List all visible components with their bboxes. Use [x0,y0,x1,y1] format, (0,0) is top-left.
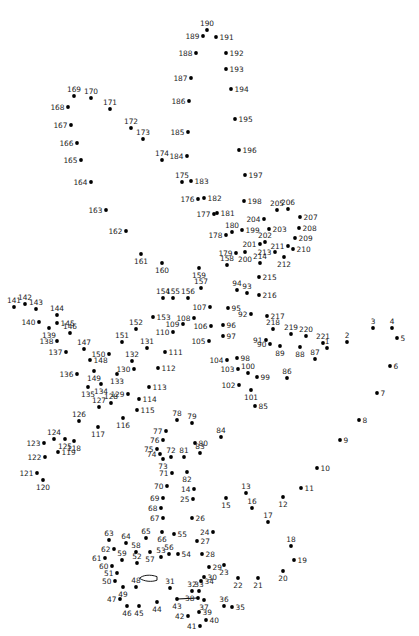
puzzle-dot [273,250,277,254]
puzzle-dot [271,327,275,331]
dot-number-label: 91 [253,336,263,345]
puzzle-dot [253,404,257,408]
puzzle-dot [258,261,262,265]
puzzle-dot [237,148,241,152]
puzzle-dot [207,339,211,343]
dot-number-label: 72 [166,446,175,455]
dot-number-label: 107 [192,303,206,312]
dot-number-label: 96 [227,321,237,330]
dot-number-label: 140 [21,318,35,327]
dot-number-label: 159 [192,271,206,280]
dot-number-label: 156 [181,287,195,296]
puzzle-dot [192,316,196,320]
dot-number-label: 209 [299,234,313,243]
dot-number-label: 203 [273,225,287,234]
puzzle-dot [103,556,107,560]
puzzle-dot [171,296,175,300]
dot-number-label: 218 [266,318,280,327]
puzzle-dot [129,126,133,130]
dot-number-label: 210 [297,245,311,254]
dot-number-label: 68 [148,504,158,513]
puzzle-dot [161,457,165,461]
dot-number-label: 208 [303,224,317,233]
puzzle-dot [190,589,194,593]
dot-number-label: 185 [170,128,184,137]
puzzle-dot [196,197,200,201]
puzzle-dot [282,255,286,259]
dot-number-label: 97 [227,332,237,341]
dot-number-label: 201 [242,240,256,249]
puzzle-dot [201,34,205,38]
dot-number-label: 67 [150,514,160,523]
puzzle-dot [125,604,129,608]
dot-number-label: 169 [67,85,81,94]
puzzle-dot [221,323,225,327]
dot-number-label: 102 [221,381,235,390]
dot-number-label: 11 [305,484,315,493]
puzzle-dot [199,286,203,290]
dot-number-label: 77 [153,427,163,436]
puzzle-dot [55,321,59,325]
puzzle-dot [199,579,203,583]
dot-number-label: 194 [235,85,249,94]
dot-number-label: 204 [246,215,260,224]
dot-number-label: 166 [59,139,73,148]
dot-number-label: 135 [81,390,95,399]
dot-number-label: 85 [259,402,269,411]
dot-number-label: 144 [50,304,64,313]
dot-number-label: 206 [281,198,295,207]
puzzle-dot [297,226,301,230]
dot-number-label: 123 [26,439,40,448]
puzzle-dot [35,471,39,475]
dot-number-label: 47 [107,595,117,604]
puzzle-dot [43,455,47,459]
puzzle-dot [197,589,201,593]
puzzle-dot [175,597,179,601]
puzzle-dot [145,346,149,350]
puzzle-dot [230,605,234,609]
puzzle-dot [275,208,279,212]
dot-number-label: 161 [134,257,148,266]
puzzle-dot [375,391,379,395]
puzzle-dot [47,326,51,330]
puzzle-dot [55,339,59,343]
puzzle-dot [135,408,139,412]
puzzle-dot [338,438,342,442]
puzzle-dot [107,352,111,356]
puzzle-dot [137,397,141,401]
puzzle-dot [236,367,240,371]
puzzle-dot [175,418,179,422]
dot-number-label: 182 [208,194,222,203]
dot-number-label: 26 [196,514,206,523]
dot-number-label: 21 [253,581,263,590]
dot-number-label: 36 [219,595,229,604]
dot-number-label: 17 [263,511,273,520]
puzzle-dot [161,296,165,300]
puzzle-dot [109,401,113,405]
puzzle-dot [107,538,111,542]
puzzle-dot [313,357,317,361]
dot-number-label: 221 [316,332,330,341]
puzzle-dot [264,338,268,342]
puzzle-dot [168,586,172,590]
dot-number-label: 56 [164,543,174,552]
dot-number-label: 69 [150,494,160,503]
dot-number-label: 60 [99,562,109,571]
puzzle-dot [246,371,250,375]
puzzle-dot [82,347,86,351]
puzzle-dot [286,207,290,211]
dot-number-label: 136 [59,370,73,379]
puzzle-dot [155,447,159,451]
dot-number-label: 125 [58,442,72,451]
dot-number-label: 27 [201,537,211,546]
puzzle-dot [235,288,239,292]
puzzle-dot [186,130,190,134]
puzzle-dot [395,336,399,340]
puzzle-dot [235,356,239,360]
puzzle-dot [160,530,164,534]
puzzle-dot [289,332,293,336]
dot-number-label: 75 [144,445,154,454]
dot-number-label: 171 [103,98,117,107]
puzzle-dot [233,117,237,121]
puzzle-dot [164,429,168,433]
